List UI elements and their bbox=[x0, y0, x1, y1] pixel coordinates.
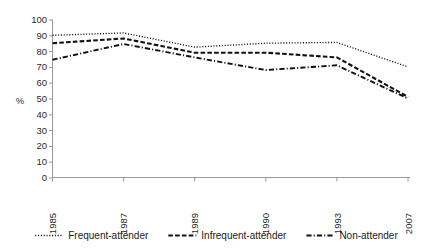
legend-label: Non-attender bbox=[339, 230, 398, 241]
y-tick-label: 10 bbox=[36, 156, 47, 167]
x-tick-label: 1989 bbox=[189, 213, 200, 234]
x-tick-label: 2007 bbox=[403, 213, 414, 234]
y-tick-label: 60 bbox=[36, 77, 47, 88]
series-line-frequent-attender bbox=[53, 33, 409, 67]
y-tick-label: 40 bbox=[36, 109, 47, 120]
y-axis-tick-labels: 0102030405060708090100 bbox=[31, 14, 47, 183]
legend-label: Infrequent-attender bbox=[201, 230, 287, 241]
x-tick-label: 1985 bbox=[47, 213, 58, 234]
chart-canvas: 0102030405060708090100 % 198519871989199… bbox=[0, 0, 421, 250]
y-tick-label: 0 bbox=[42, 172, 47, 183]
y-tick-label: 30 bbox=[36, 125, 47, 136]
y-tick-label: 70 bbox=[36, 61, 47, 72]
chart-legend: Frequent-attenderInfrequent-attenderNon-… bbox=[35, 230, 398, 241]
y-tick-label: 50 bbox=[36, 93, 47, 104]
y-tick-label: 90 bbox=[36, 30, 47, 41]
y-tick-label: 20 bbox=[36, 140, 47, 151]
y-axis-title: % bbox=[16, 95, 25, 106]
y-tick-label: 100 bbox=[31, 14, 47, 25]
y-tick-label: 80 bbox=[36, 46, 47, 57]
x-axis-tick-marks bbox=[53, 178, 409, 182]
line-chart: 0102030405060708090100 % 198519871989199… bbox=[0, 0, 421, 250]
data-series-group bbox=[53, 33, 409, 99]
legend-label: Frequent-attender bbox=[68, 230, 149, 241]
y-axis-tick-marks bbox=[49, 20, 53, 178]
